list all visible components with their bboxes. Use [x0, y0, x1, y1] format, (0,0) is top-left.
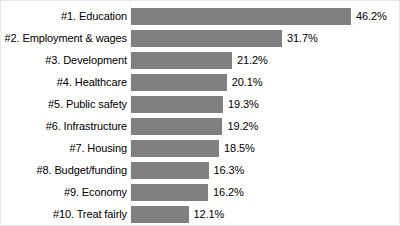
bar [131, 74, 227, 91]
bar-track: 21.2% [131, 52, 400, 69]
value-label: 19.2% [227, 120, 258, 132]
bar-track: 16.3% [131, 162, 400, 179]
value-label: 16.3% [214, 164, 245, 176]
category-label: #2. Employment & wages [1, 32, 127, 44]
category-label: #5. Public safety [1, 98, 127, 110]
table-row: #8. Budget/funding 16.3% [1, 159, 400, 181]
value-label: 21.2% [237, 54, 268, 66]
bar [131, 30, 282, 47]
bar-rows-container: #1. Education 46.2% #2. Employment & wag… [1, 5, 400, 225]
category-label: #8. Budget/funding [1, 164, 127, 176]
table-row: #7. Housing 18.5% [1, 137, 400, 159]
bar-track: 31.7% [131, 30, 400, 47]
category-label: #6. Infrastructure [1, 120, 127, 132]
category-label: #3. Development [1, 54, 127, 66]
category-label: #4. Healthcare [1, 76, 127, 88]
bar-track: 20.1% [131, 74, 400, 91]
bar-chart: #1. Education 46.2% #2. Employment & wag… [0, 0, 400, 226]
bar-track: 19.2% [131, 118, 400, 135]
bar [131, 162, 209, 179]
value-label: 16.2% [213, 186, 244, 198]
category-label: #1. Education [1, 10, 127, 22]
value-label: 19.3% [228, 98, 259, 110]
value-label: 46.2% [356, 10, 387, 22]
value-label: 12.1% [194, 208, 225, 220]
bar [131, 140, 219, 157]
bar [131, 8, 351, 25]
table-row: #2. Employment & wages 31.7% [1, 27, 400, 49]
value-label: 20.1% [232, 76, 263, 88]
bar [131, 206, 189, 223]
category-label: #9. Economy [1, 186, 127, 198]
bar [131, 118, 222, 135]
category-label: #10. Treat fairly [1, 208, 127, 220]
table-row: #10. Treat fairly 12.1% [1, 203, 400, 225]
table-row: #3. Development 21.2% [1, 49, 400, 71]
bar-track: 12.1% [131, 206, 400, 223]
value-label: 18.5% [224, 142, 255, 154]
bar [131, 184, 208, 201]
bar-track: 46.2% [131, 8, 400, 25]
table-row: #9. Economy 16.2% [1, 181, 400, 203]
category-label: #7. Housing [1, 142, 127, 154]
table-row: #1. Education 46.2% [1, 5, 400, 27]
table-row: #6. Infrastructure 19.2% [1, 115, 400, 137]
table-row: #4. Healthcare 20.1% [1, 71, 400, 93]
bar-track: 19.3% [131, 96, 400, 113]
value-label: 31.7% [287, 32, 318, 44]
bar-track: 16.2% [131, 184, 400, 201]
bar [131, 96, 223, 113]
bar-track: 18.5% [131, 140, 400, 157]
bar [131, 52, 232, 69]
table-row: #5. Public safety 19.3% [1, 93, 400, 115]
